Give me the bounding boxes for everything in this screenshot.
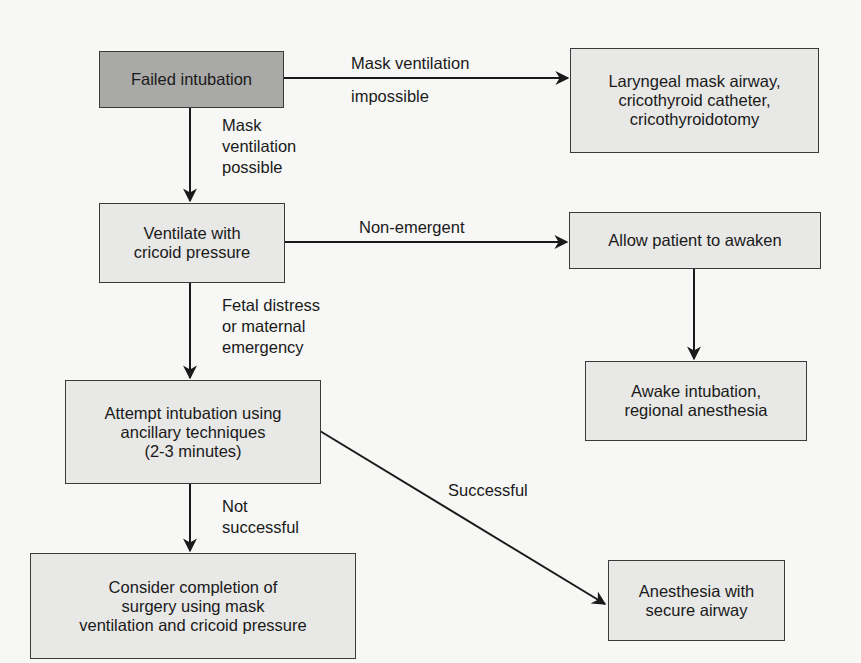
node-text: Awake intubation, (631, 382, 761, 401)
node-text: regional anesthesia (624, 401, 767, 420)
edge-label-successful: Successful (448, 480, 528, 501)
edge-label-not-successful: Not successful (222, 496, 299, 538)
node-text: (2-3 minutes) (144, 442, 241, 461)
node-text: Ventilate with (143, 224, 240, 243)
edge-label-line: Fetal distress (222, 295, 320, 316)
node-text: Laryngeal mask airway, (608, 72, 780, 91)
edge-label-mask-ventilation-possible: Mask ventilation possible (222, 115, 296, 178)
node-text: secure airway (646, 601, 748, 620)
node-allow-awaken: Allow patient to awaken (569, 212, 821, 269)
edge-label-line: Mask (222, 115, 296, 136)
node-text: surgery using mask (121, 597, 264, 616)
edge-label-fetal-distress: Fetal distress or maternal emergency (222, 295, 320, 358)
node-laryngeal-mask-airway: Laryngeal mask airway, cricothyroid cath… (570, 48, 819, 153)
node-text: cricothyroidotomy (630, 110, 759, 129)
edge-label-line: Not (222, 496, 299, 517)
node-text: Consider completion of (109, 578, 278, 597)
node-anesthesia-secure-airway: Anesthesia with secure airway (608, 560, 785, 641)
node-text: cricothyroid catheter, (618, 91, 770, 110)
node-text: cricoid pressure (134, 243, 250, 262)
node-awake-intubation: Awake intubation, regional anesthesia (585, 361, 807, 441)
node-text: ancillary techniques (121, 423, 266, 442)
node-text: Allow patient to awaken (608, 231, 781, 250)
node-text: Attempt intubation using (104, 404, 281, 423)
edge-label-mask-ventilation: Mask ventilation (351, 53, 469, 74)
edge-label-impossible: impossible (351, 86, 429, 107)
node-failed-intubation: Failed intubation (99, 51, 284, 108)
node-ventilate-cricoid: Ventilate with cricoid pressure (99, 203, 285, 283)
edge-label-line: emergency (222, 337, 320, 358)
edge-label-line: successful (222, 517, 299, 538)
edge-label-line: possible (222, 157, 296, 178)
node-attempt-intubation: Attempt intubation using ancillary techn… (65, 380, 321, 484)
arrow-attempt-to-secure (320, 431, 605, 604)
node-text: Failed intubation (131, 70, 252, 89)
node-consider-completion: Consider completion of surgery using mas… (30, 553, 356, 659)
node-text: ventilation and cricoid pressure (79, 616, 306, 635)
edge-label-line: ventilation (222, 136, 296, 157)
edge-label-non-emergent: Non-emergent (359, 217, 464, 238)
node-text: Anesthesia with (639, 582, 755, 601)
edge-label-line: or maternal (222, 316, 320, 337)
